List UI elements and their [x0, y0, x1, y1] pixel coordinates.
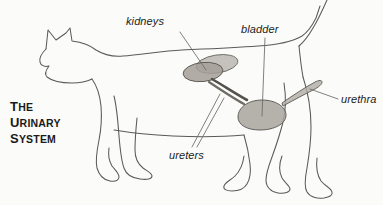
- ureter-lower-organ: [209, 82, 244, 104]
- figure-title: THE URINARY SYSTEM: [10, 99, 100, 147]
- title-line-2-cap: U: [10, 115, 20, 130]
- title-line-2: URINARY: [10, 115, 100, 131]
- title-line-1-rest: HE: [18, 101, 33, 113]
- cat-front-leg-rear: [114, 96, 152, 179]
- cat-head-underside: [40, 49, 92, 83]
- leader-line-ureters-lower: [197, 98, 224, 147]
- cat-rear-flank: [299, 46, 303, 77]
- cat-hind-leg-front: [224, 135, 251, 191]
- title-line-2-rest: RINARY: [20, 117, 61, 129]
- label-kidneys: kidneys: [126, 15, 164, 27]
- title-line-3: SYSTEM: [10, 131, 100, 147]
- leader-line-urethra: [310, 89, 338, 99]
- urinary-system-figure: THE URINARY SYSTEM kidneys bladder ureth…: [0, 0, 383, 205]
- kidney-lower-organ: [182, 60, 224, 83]
- urethra-organ: [282, 81, 322, 107]
- title-line-1: THE: [10, 99, 100, 115]
- title-line-3-rest: YSTEM: [19, 133, 56, 145]
- cat-head-and-back: [46, 6, 320, 56]
- label-ureters: ureters: [169, 149, 204, 161]
- leader-line-ureters-upper: [192, 94, 220, 147]
- title-line-1-cap: T: [10, 99, 18, 114]
- cat-belly: [114, 130, 244, 137]
- label-bladder: bladder: [241, 23, 278, 35]
- ureter-upper-organ: [212, 79, 247, 100]
- label-urethra: urethra: [341, 93, 377, 105]
- title-line-3-cap: S: [10, 131, 19, 146]
